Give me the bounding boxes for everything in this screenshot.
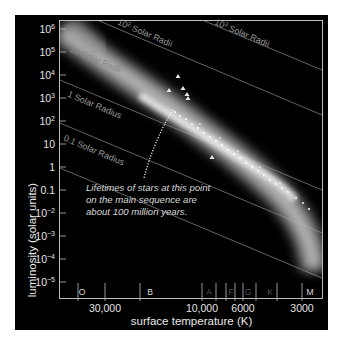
spectral-class-F: F: [228, 287, 233, 297]
y-tick-1e4: 104: [39, 69, 55, 81]
annotation-line-2: on the main sequence are: [86, 194, 256, 206]
y-tick-marks: [59, 29, 66, 282]
spectral-class-O: O: [79, 287, 86, 297]
y-tick-1e6: 106: [39, 23, 55, 35]
annotation-line-1: Lifetimes of stars at this point: [86, 182, 256, 194]
x-tick-6000: 6000: [231, 302, 254, 314]
y-tick-1e2: 102: [39, 115, 55, 127]
spectral-class-M: M: [306, 287, 313, 297]
y-axis-label: luminosity (solar units): [26, 160, 40, 320]
y-tick-1: 1: [49, 161, 55, 173]
annotation-line-3: about 100 million years.: [86, 206, 256, 218]
spectral-class-K: K: [267, 287, 273, 297]
x-tick-3000: 3000: [290, 302, 313, 314]
x-tick-10000: 10,000: [186, 302, 218, 314]
spectral-class-bar: [60, 286, 322, 298]
spectral-class-A: A: [206, 287, 212, 297]
y-tick-1e3: 103: [39, 92, 55, 104]
y-tick-1e5: 105: [39, 46, 55, 58]
spectral-class-G: G: [245, 287, 252, 297]
y-tick-0.1: 0.1: [40, 184, 55, 196]
spectral-class-B: B: [147, 287, 153, 297]
lifetime-annotation: Lifetimes of stars at this point on the …: [86, 182, 256, 217]
x-tick-30000: 30,000: [89, 302, 121, 314]
x-axis-label: surface temperature (K): [60, 315, 323, 327]
y-tick-10: 10: [43, 138, 55, 150]
